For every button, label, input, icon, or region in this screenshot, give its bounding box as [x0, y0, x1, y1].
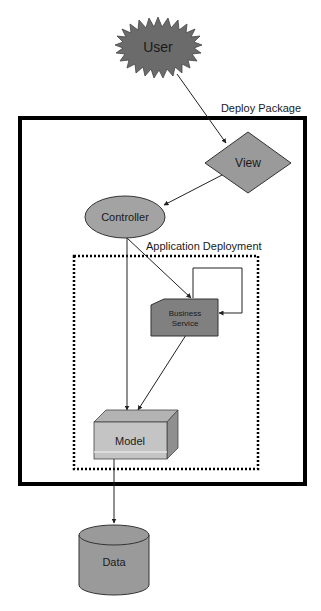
architecture-diagram: Deploy Package Application Deployment Us… — [0, 0, 321, 611]
user-label: User — [143, 39, 173, 55]
user-node[interactable]: User — [115, 17, 202, 78]
business-service-label-line1: Business — [169, 309, 201, 318]
business-service-label-line2: Service — [172, 319, 199, 328]
view-label: View — [235, 156, 261, 170]
edge-user-view — [177, 74, 226, 143]
business-service-node[interactable]: Business Service — [151, 299, 218, 336]
view-node[interactable]: View — [205, 132, 291, 193]
data-node[interactable]: Data — [79, 525, 149, 595]
controller-label: Controller — [101, 211, 149, 223]
model-label: Model — [115, 435, 145, 447]
box-top-face — [94, 410, 178, 422]
model-node[interactable]: Model — [94, 410, 178, 459]
edge-business-service-model — [138, 335, 186, 410]
cylinder-top — [79, 525, 149, 545]
controller-node[interactable]: Controller — [85, 196, 165, 238]
edge-view-controller — [164, 174, 224, 205]
deploy-package-label: Deploy Package — [221, 102, 301, 114]
application-deployment-label: Application Deployment — [146, 240, 262, 252]
data-label: Data — [102, 556, 126, 568]
